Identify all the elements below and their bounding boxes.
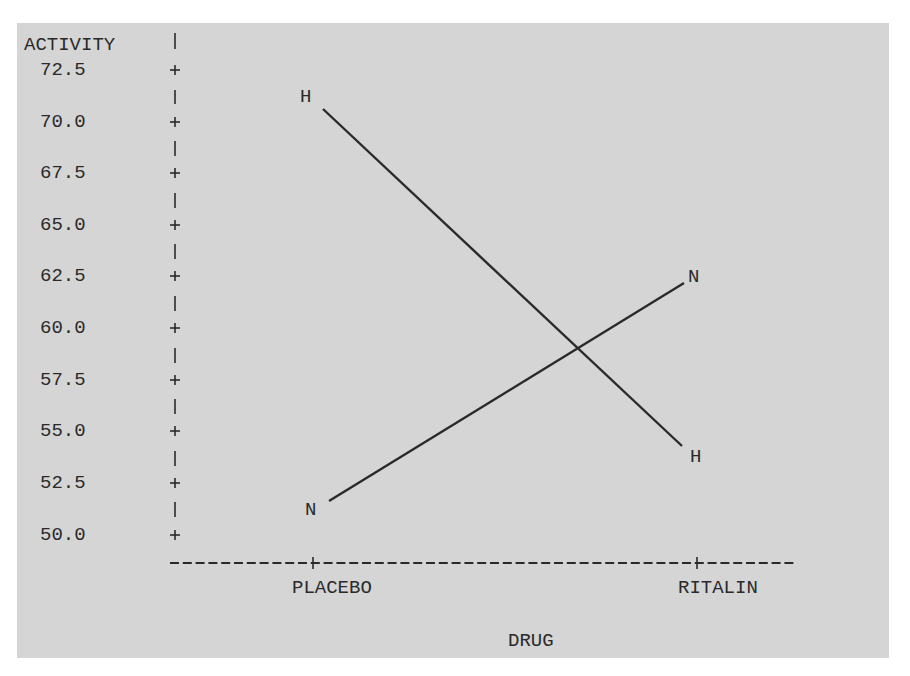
y-tick-label: 55.0 [40,422,86,441]
point-marker-n-placebo: N [305,501,316,520]
y-tick-label: 65.0 [40,216,86,235]
y-tick-label: 70.0 [40,113,86,132]
y-tick-label: 67.5 [40,164,86,183]
plot-lines [0,0,910,676]
point-marker-h-ritalin: H [690,448,701,467]
y-axis-label: ACTIVITY [24,36,115,55]
y-tick-label: 62.5 [40,267,86,286]
x-category-ritalin: RITALIN [678,579,758,598]
y-tick-label: 60.0 [40,319,86,338]
y-tick-label: 50.0 [40,526,86,545]
point-marker-h-placebo: H [300,88,311,107]
y-tick-label: 57.5 [40,371,86,390]
series-n-line [329,283,684,501]
x-axis-label: DRUG [508,632,554,651]
x-category-placebo: PLACEBO [292,579,372,598]
y-tick-label: 52.5 [40,474,86,493]
point-marker-n-ritalin: N [688,268,699,287]
y-tick-label: 72.5 [40,61,86,80]
